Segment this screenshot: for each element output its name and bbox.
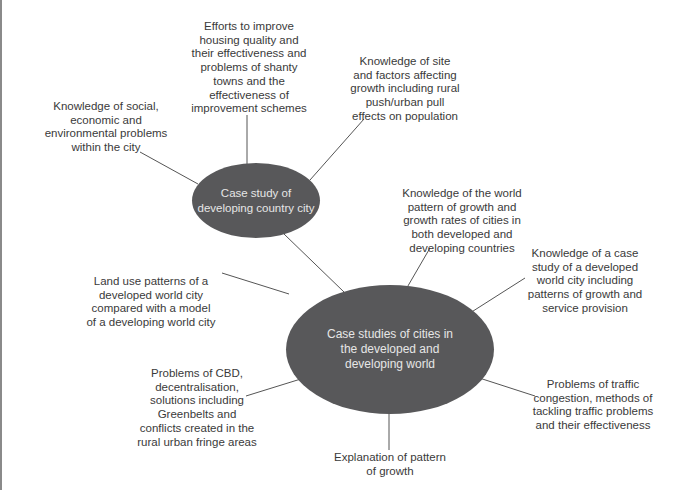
label-housing: Efforts to improve housing quality and t…: [187, 20, 311, 116]
node-cities-world: Case studies of cities in the developed …: [286, 285, 494, 414]
label-world-pattern: Knowledge of the world pattern of growth…: [400, 187, 524, 256]
connector-site-factors: [310, 119, 364, 180]
connector-developed-case: [470, 278, 525, 313]
label-site-factors: Knowledge of site and factors affecting …: [350, 55, 460, 124]
label-traffic: Problems of traffic congestion, methods …: [530, 378, 656, 433]
label-developed-case: Knowledge of a case study of a developed…: [522, 247, 648, 316]
label-explanation: Explanation of pattern of growth: [330, 451, 450, 478]
connector-between-nodes: [284, 234, 344, 292]
connector-land-use: [222, 273, 289, 294]
node-developing-city-label: Case study of developing country city: [194, 186, 318, 216]
label-land-use: Land use patterns of a developed world c…: [86, 275, 216, 330]
label-cbd: Problems of CBD, decentralisation, solut…: [137, 367, 257, 449]
node-developing-city: Case study of developing country city: [192, 163, 320, 238]
node-cities-world-label: Case studies of cities in the developed …: [320, 327, 460, 372]
label-social-problems: Knowledge of social, economic and enviro…: [44, 100, 168, 155]
connector-social-problems: [140, 152, 198, 184]
